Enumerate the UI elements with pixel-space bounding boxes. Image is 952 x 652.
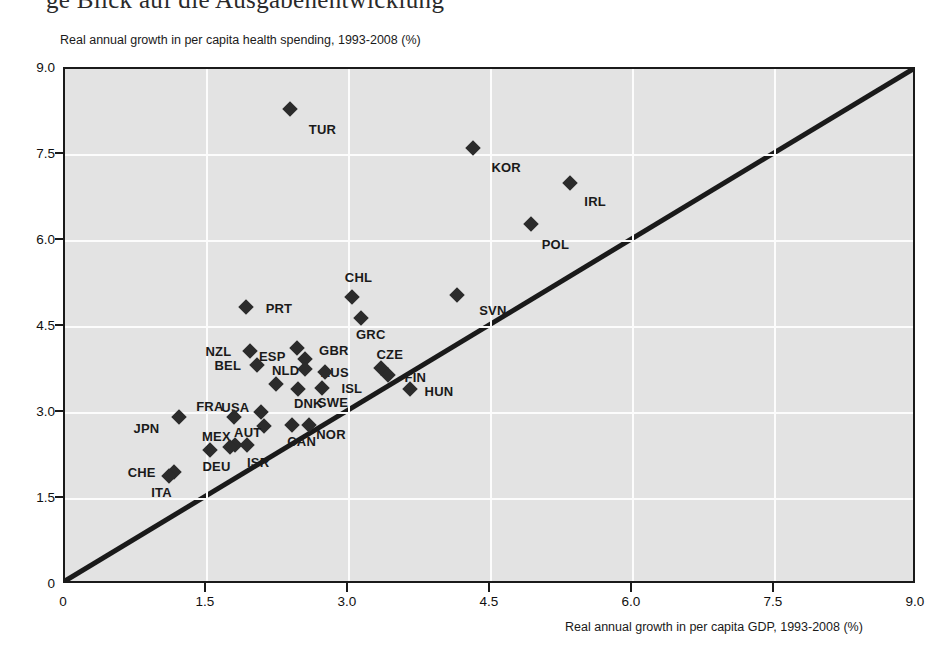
data-point-label: FRA (196, 398, 223, 413)
x-axis-tick-label: 3.0 (338, 594, 357, 609)
data-point-label: BEL (215, 358, 242, 373)
x-axis-tick-label: 0 (59, 594, 67, 609)
data-point-label: GRC (356, 326, 386, 341)
data-point-label: CHL (345, 269, 372, 284)
y-axis-tick-label: 3.0 (9, 404, 55, 419)
gridline-horizontal (65, 326, 913, 328)
data-point-label: NOR (316, 427, 346, 442)
data-point-label: TUR (309, 122, 336, 137)
data-point-label: ISL (341, 380, 362, 395)
y-axis-labels: 01.53.04.56.07.59.0 (0, 0, 55, 652)
data-point-label: HUN (425, 384, 454, 399)
y-axis-tick-label: 9.0 (9, 60, 55, 75)
x-axis-tick (772, 583, 774, 592)
x-axis-tick (346, 583, 348, 592)
x-axis-tick-label: 4.5 (480, 594, 499, 609)
x-axis-title: Real annual growth in per capita GDP, 19… (565, 620, 863, 634)
y-axis-tick (55, 410, 64, 412)
y-axis-tick-label: 1.5 (9, 490, 55, 505)
data-point-label: JPN (133, 421, 159, 436)
data-point-label: POL (542, 236, 569, 251)
y-axis-tick (55, 152, 64, 154)
y-axis-tick-label: 0 (9, 576, 55, 591)
data-point-label: GBR (319, 342, 349, 357)
x-axis-tick-label: 1.5 (196, 594, 215, 609)
data-point-label: CZE (376, 346, 403, 361)
data-point-label: NLD (272, 363, 299, 378)
gridline-vertical (774, 69, 776, 581)
x-axis-tick-label: 9.0 (906, 594, 925, 609)
data-point-label: CAN (287, 433, 316, 448)
x-axis-tick (630, 583, 632, 592)
y-axis-tick (55, 324, 64, 326)
gridline-vertical (206, 69, 208, 581)
y-axis-tick (55, 496, 64, 498)
x-axis-tick (488, 583, 490, 592)
gridline-vertical (348, 69, 350, 581)
y-axis-tick (55, 238, 64, 240)
data-point-label: ESP (259, 348, 286, 363)
x-axis-tick-label: 7.5 (764, 594, 783, 609)
gridline-horizontal (65, 412, 913, 414)
data-point-label: KOR (491, 160, 521, 175)
page-bleed-text: ge Blick auf die Ausgabenentwicklung (46, 0, 444, 14)
data-point-label: DEU (202, 459, 230, 474)
gridline-horizontal (65, 154, 913, 156)
data-point-label: ITA (151, 484, 172, 499)
data-point-label: CHE (128, 465, 156, 480)
y-axis-tick-label: 6.0 (9, 232, 55, 247)
y-axis-title: Real annual growth in per capita health … (60, 33, 421, 47)
gridline-horizontal (65, 240, 913, 242)
gridline-vertical (632, 69, 634, 581)
y-axis-tick-label: 7.5 (9, 146, 55, 161)
data-point-label: NZL (205, 343, 231, 358)
data-point-label: PRT (266, 300, 293, 315)
data-point-label: IRL (584, 193, 606, 208)
data-point-label: SWE (318, 394, 348, 409)
diagonal-reference-line (65, 69, 913, 581)
data-point-label: ISR (247, 455, 269, 470)
x-axis-tick (204, 583, 206, 592)
plot-area: TURKORIRLPOLCHLSVNPRTGRCGBRESPNZLBELAUSC… (63, 67, 915, 583)
chart-page: ge Blick auf die Ausgabenentwicklung Rea… (0, 0, 952, 652)
gridline-horizontal (65, 498, 913, 500)
data-point-label: SVN (479, 303, 506, 318)
gridline-vertical (490, 69, 492, 581)
y-axis-tick-label: 4.5 (9, 318, 55, 333)
x-axis-tick-label: 6.0 (622, 594, 641, 609)
